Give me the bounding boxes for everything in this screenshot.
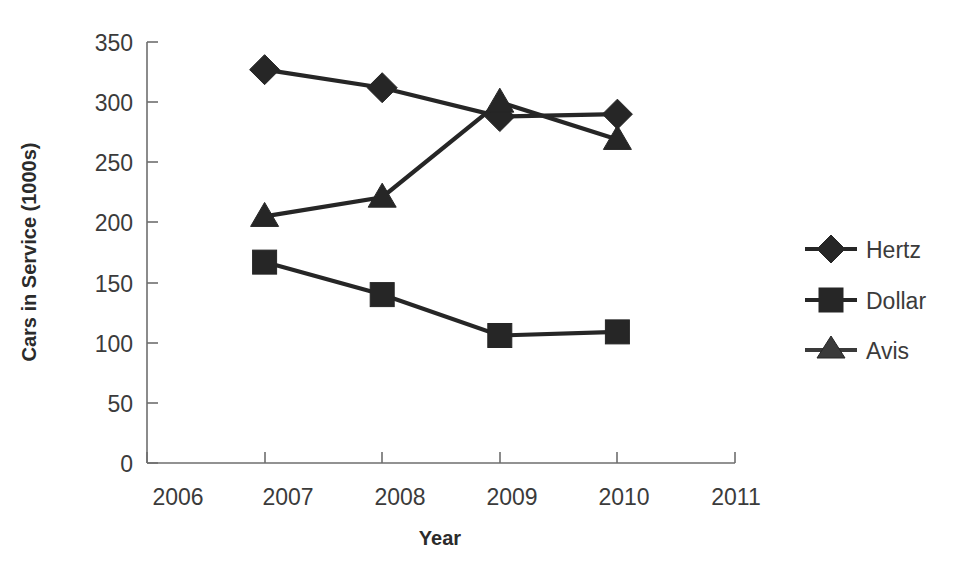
x-tick-label-2009: 2009: [486, 484, 537, 510]
y-tick-label-250: 250: [95, 150, 133, 176]
y-tick-label-350: 350: [95, 30, 133, 56]
line-chart: 350 300 250 200 150 100 50 0 Cars in Ser…: [0, 0, 974, 570]
x-axis-tick-labels: 2006 2007 2008 2009 2010 2011: [152, 484, 760, 510]
y-tick-label-200: 200: [95, 210, 133, 236]
x-axis: 2006 2007 2008 2009 2010 2011 Year: [147, 452, 761, 549]
y-axis-tick-labels: 350 300 250 200 150 100 50 0: [95, 30, 133, 477]
diamond-marker-icon: [367, 73, 397, 103]
y-axis: 350 300 250 200 150 100 50 0 Cars in Ser…: [18, 30, 158, 477]
square-marker-icon: [370, 283, 394, 307]
square-marker-icon: [605, 320, 629, 344]
series-hertz: [250, 55, 633, 132]
y-tick-label-300: 300: [95, 90, 133, 116]
x-tick-label-2011: 2011: [711, 484, 760, 510]
x-tick-label-2007: 2007: [262, 484, 313, 510]
series-avis: [251, 88, 632, 226]
y-axis-title: Cars in Service (1000s): [18, 142, 40, 361]
diamond-marker-icon: [250, 55, 280, 85]
legend-item-dollar[interactable]: Dollar: [805, 288, 926, 314]
series-line-dollar: [265, 262, 618, 335]
legend-label-hertz: Hertz: [866, 237, 921, 263]
x-axis-ticks: [147, 452, 735, 463]
square-marker-icon: [488, 323, 512, 347]
square-marker-icon: [819, 288, 843, 312]
y-tick-label-0: 0: [120, 451, 133, 477]
square-marker-icon: [253, 250, 277, 274]
series-line-avis: [265, 102, 618, 216]
y-tick-label-150: 150: [95, 271, 133, 297]
x-tick-label-2010: 2010: [598, 484, 649, 510]
y-axis-ticks: [147, 42, 158, 463]
chart-canvas: 350 300 250 200 150 100 50 0 Cars in Ser…: [0, 0, 974, 570]
legend: Hertz Dollar Avis: [805, 235, 926, 364]
triangle-marker-icon: [486, 88, 514, 112]
series-dollar: [253, 250, 630, 347]
diamond-marker-icon: [817, 235, 845, 263]
legend-item-avis[interactable]: Avis: [805, 336, 909, 364]
series-line-hertz: [265, 70, 618, 117]
legend-label-avis: Avis: [866, 338, 909, 364]
y-tick-label-100: 100: [95, 331, 133, 357]
legend-label-dollar: Dollar: [866, 288, 926, 314]
series-layer: [250, 55, 633, 348]
x-tick-label-2008: 2008: [374, 484, 425, 510]
x-axis-title: Year: [419, 527, 461, 549]
y-tick-label-50: 50: [107, 391, 133, 417]
x-tick-label-2006: 2006: [152, 484, 203, 510]
legend-item-hertz[interactable]: Hertz: [805, 235, 921, 263]
triangle-marker-icon: [817, 336, 845, 358]
